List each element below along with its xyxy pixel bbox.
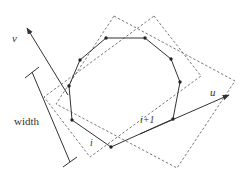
convex-polygon <box>69 38 180 147</box>
diagram-canvas: v u width i i+1 <box>0 0 247 180</box>
vertex <box>104 36 107 39</box>
width-label: width <box>14 115 40 127</box>
width-tick-bottom <box>63 157 77 167</box>
edge-i-label: i <box>90 137 93 148</box>
vertex <box>67 84 70 87</box>
vertex <box>109 145 112 148</box>
vertex <box>169 57 172 60</box>
u-axis-label: u <box>210 86 216 98</box>
vertex <box>143 36 146 39</box>
edge-i-plus-1-label: i+1 <box>140 114 155 125</box>
vertex <box>70 118 73 121</box>
width-tick-top <box>25 67 39 78</box>
v-axis-arrow <box>27 28 68 95</box>
vertex <box>178 80 181 83</box>
v-axis-label: v <box>12 32 17 44</box>
vertex <box>78 58 81 61</box>
